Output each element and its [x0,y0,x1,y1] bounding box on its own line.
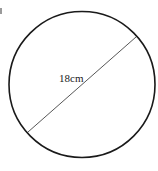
circle-diagram: 18cm [0,0,158,171]
diameter-label: 18cm [59,72,84,84]
diameter-line [28,37,136,132]
